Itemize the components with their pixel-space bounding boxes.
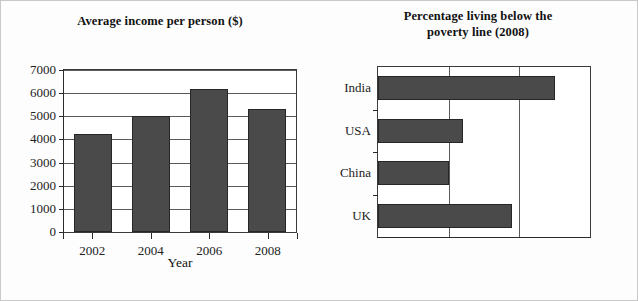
- right-category-label: USA: [345, 123, 371, 139]
- right-bar-series: [378, 67, 590, 237]
- left-bar: [132, 116, 170, 232]
- left-x-axis-label: Year: [63, 255, 297, 271]
- left-y-tick-label: 7000: [30, 62, 56, 78]
- left-x-tick-mark: [63, 233, 64, 239]
- left-x-tick-mark: [92, 233, 93, 239]
- left-bar-slot: [238, 70, 296, 232]
- left-x-tick-mark: [268, 233, 269, 239]
- left-y-tick-label: 5000: [30, 108, 56, 124]
- right-bar-slot: [378, 195, 590, 238]
- left-x-tick-mark: [209, 233, 210, 239]
- right-chart-title-line2: poverty line (2008): [319, 24, 637, 40]
- right-bar-slot: [378, 67, 590, 110]
- right-category-label: India: [344, 80, 371, 96]
- left-bar-slot: [180, 70, 238, 232]
- left-y-tick-label: 2000: [30, 178, 56, 194]
- left-y-tick-label: 1000: [30, 201, 56, 217]
- left-x-tick-mark: [297, 233, 298, 239]
- left-y-tick-label: 6000: [30, 85, 56, 101]
- right-bar: [378, 76, 555, 100]
- right-chart-title: Percentage living below the poverty line…: [319, 8, 637, 40]
- right-chart-panel: Percentage living below the poverty line…: [319, 1, 637, 301]
- left-y-tick-label: 0: [50, 224, 57, 240]
- left-y-tick-label: 3000: [30, 155, 56, 171]
- right-bar: [378, 161, 449, 185]
- right-chart-title-line1: Percentage living below the: [319, 8, 637, 24]
- left-y-tick-label: 4000: [30, 131, 56, 147]
- left-bar-series: [64, 70, 296, 232]
- left-bar-slot: [122, 70, 180, 232]
- left-bar-slot: [64, 70, 122, 232]
- right-bar: [378, 204, 512, 228]
- right-category-label: China: [340, 165, 371, 181]
- right-bar: [378, 119, 463, 143]
- left-plot-area: 01000200030004000500060007000: [63, 69, 297, 233]
- right-category-label: UK: [352, 208, 371, 224]
- right-bar-slot: [378, 152, 590, 195]
- left-bar: [190, 89, 228, 232]
- right-plot-area: IndiaUSAChinaUK: [377, 66, 591, 238]
- right-bar-slot: [378, 110, 590, 153]
- left-bar: [248, 109, 286, 232]
- figure-container: Average income per person ($) 0100020003…: [0, 0, 638, 301]
- left-bar: [74, 134, 112, 232]
- left-x-tick-mark: [151, 233, 152, 239]
- left-chart-title: Average income per person ($): [1, 13, 319, 29]
- left-chart-panel: Average income per person ($) 0100020003…: [1, 1, 319, 301]
